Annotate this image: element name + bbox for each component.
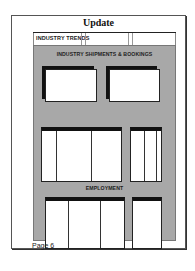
table-column-divider <box>144 131 145 181</box>
shipments-bookings-heading: INDUSTRY SHIPMENTS & BOOKINGS <box>34 51 175 58</box>
shipments-table-frame <box>41 127 122 182</box>
industry-trends-strip: INDUSTRY TRENDS <box>33 33 176 45</box>
strip-divider <box>132 33 133 45</box>
employment-table-frame <box>45 197 125 249</box>
strip-divider <box>85 33 86 45</box>
table-column-divider <box>100 201 101 248</box>
shipments-chart-frame <box>45 69 97 102</box>
bookings-chart-frame <box>109 69 160 102</box>
table-column-divider <box>68 201 69 248</box>
page-title: Update <box>12 17 185 29</box>
content-panel: INDUSTRY SHIPMENTS & BOOKINGS EMPLOYMENT <box>33 45 176 241</box>
employment-side-frame <box>132 197 162 249</box>
document-page: Update INDUSTRY TRENDS INDUSTRY SHIPMENT… <box>11 15 186 249</box>
bookings-table-frame <box>130 127 162 182</box>
table-column-divider <box>56 131 57 181</box>
table-column-divider <box>156 131 157 181</box>
strip-divider <box>81 33 82 45</box>
employment-heading: EMPLOYMENT <box>34 185 175 192</box>
table-column-divider <box>91 131 92 181</box>
strip-divider <box>128 33 129 45</box>
page-number: Page 6 <box>32 242 54 250</box>
